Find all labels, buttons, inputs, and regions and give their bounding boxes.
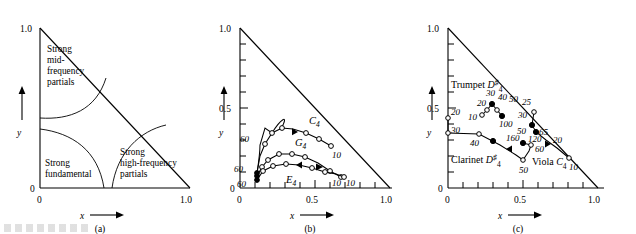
panel-a-caption: (a) xyxy=(95,224,106,234)
panel-a-region-strong-high-frequency-partials: Strong high-frequency partials xyxy=(120,147,177,179)
x-tick-label-zero: 0 xyxy=(37,195,42,205)
cropped-caption-fragment xyxy=(4,224,90,232)
curve-end-label-c4: 10 xyxy=(332,150,342,160)
x-axis-name: x xyxy=(79,211,85,221)
panel-b-svg: C4 10 G4 10 xyxy=(210,0,422,234)
panel-b: C4 10 G4 10 xyxy=(210,0,422,234)
point-label-trumpet: 100 xyxy=(499,119,513,129)
panel-c: 10 20 30 40 50 100 Trumpet D♯4 xyxy=(418,0,636,234)
panel-a-region-strong-fundamental: Strong fundamental xyxy=(45,158,92,179)
x-tick-label-zero: 0 xyxy=(237,195,242,205)
x-tick-label-zero: 0 xyxy=(445,195,450,205)
y-tick-label-zero: 0 xyxy=(30,184,35,194)
x-axis-name: x xyxy=(289,211,295,221)
panel-a-region-strong-mid-frequency-partials: Strong mid- frequency partials xyxy=(47,44,85,87)
region-label-line: frequency xyxy=(47,66,85,76)
point-label-trumpet: 10 xyxy=(468,112,478,122)
figure-container: Strong mid- frequency partials Strong fu… xyxy=(0,0,636,234)
x-tick-label-max: 1.0 xyxy=(180,195,192,205)
region-label-line: Strong xyxy=(120,147,145,157)
curve-end-label-g4: 10 xyxy=(332,178,342,188)
point-label-viola: 30 xyxy=(517,110,528,120)
y-tick-label-top: 1.0 xyxy=(20,24,32,34)
point-label-trumpet: 50 xyxy=(509,94,519,104)
panel-b-start-cluster: 60 60 60 xyxy=(234,134,259,189)
panel-c-x-axis-label: x xyxy=(497,211,542,221)
x-tick-label-mid: 0.5 xyxy=(514,195,526,205)
y-tick-label-zero: 0 xyxy=(438,184,443,194)
x-tick-label-max: 1.0 xyxy=(380,195,392,205)
x-axis-name: x xyxy=(497,211,503,221)
point-label-viola: 10 xyxy=(569,162,579,172)
y-axis-name: y xyxy=(16,128,22,138)
curve-label-e4: E4 xyxy=(285,174,296,188)
point-label-viola: 65 xyxy=(539,127,549,137)
region-label-line: Strong xyxy=(45,158,70,168)
region-label-line: high-frequency xyxy=(120,158,177,168)
region-label-line: partials xyxy=(120,169,148,179)
point-label-clarinet: 20 xyxy=(451,107,461,117)
point-label-trumpet: 20 xyxy=(477,98,487,108)
curve-start-label-g4: 60 xyxy=(234,164,244,174)
panel-b-x-axis-label: x xyxy=(289,211,334,221)
x-tick-label-mid: 0.5 xyxy=(306,195,318,205)
y-tick-label-top: 1.0 xyxy=(219,24,231,34)
y-axis-name: y xyxy=(218,128,224,138)
curve-start-label-c4: 60 xyxy=(240,134,250,144)
region-label-line: partials xyxy=(47,77,75,87)
curve-label-g4: G4 xyxy=(295,137,307,151)
point-label-clarinet: 40 xyxy=(470,138,480,148)
point-label-viola: 50 xyxy=(517,126,527,136)
point-label-clarinet: 60 xyxy=(535,144,545,154)
panel-c-caption: (c) xyxy=(513,224,524,234)
point-label-clarinet: 30 xyxy=(450,125,461,135)
curve-start-label-e4: 60 xyxy=(237,179,247,189)
y-tick-label-mid: 0.5 xyxy=(427,104,439,114)
x-tick-label-max: 1.0 xyxy=(588,195,600,205)
y-tick-label-zero: 0 xyxy=(230,184,235,194)
instrument-label-clarinet: Clarinet D♯4 xyxy=(451,153,501,169)
curve-end-label-e4: 10 xyxy=(346,178,356,188)
region-label-line: fundamental xyxy=(45,169,92,179)
panel-c-curve-viola: 25 30 50 65 20 10 Viola C4 xyxy=(517,97,579,172)
panel-a-x-axis-label: x xyxy=(79,211,124,221)
curve-label-c4: C4 xyxy=(309,115,320,129)
panel-c-curve-clarinet: 20 30 40 50 160 120 60 Clarinet D♯4 xyxy=(446,107,545,175)
panel-a: Strong mid- frequency partials Strong fu… xyxy=(0,0,212,234)
instrument-label-viola: Viola C4 xyxy=(532,156,567,171)
panel-a-y-axis-label: y xyxy=(16,86,25,138)
instrument-label-trumpet: Trumpet D♯4 xyxy=(451,78,503,94)
y-axis-name: y xyxy=(426,128,432,138)
point-label-clarinet: 50 xyxy=(519,165,529,175)
panel-a-svg: Strong mid- frequency partials Strong fu… xyxy=(0,0,212,234)
panel-b-caption: (b) xyxy=(304,224,315,234)
y-tick-label-top: 1.0 xyxy=(427,24,439,34)
y-tick-label-mid: 0.5 xyxy=(219,104,231,114)
region-label-line: Strong xyxy=(47,44,72,54)
panel-c-svg: 10 20 30 40 50 100 Trumpet D♯4 xyxy=(418,0,636,234)
point-label-viola: 20 xyxy=(553,135,563,145)
region-label-line: mid- xyxy=(47,55,65,65)
panel-b-tick-labels: 1.0 0.5 0 0 0.5 1.0 xyxy=(219,24,392,205)
panel-c-curve-trumpet: 10 20 30 40 50 100 Trumpet D♯4 xyxy=(451,78,519,129)
point-label-viola: 25 xyxy=(522,97,532,107)
